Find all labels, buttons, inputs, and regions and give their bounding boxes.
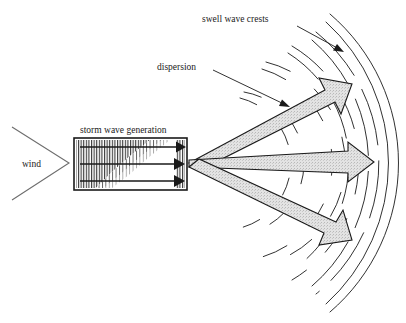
storm-wave-generation-box — [74, 138, 187, 190]
wind-label: wind — [22, 159, 41, 169]
storm-wave-generation-label: storm wave generation — [80, 125, 167, 135]
swell-generation-diagram: wind stor — [0, 0, 406, 323]
swell-wave-crests-label: swell wave crests — [202, 14, 269, 24]
dispersion-label: dispersion — [157, 62, 196, 72]
